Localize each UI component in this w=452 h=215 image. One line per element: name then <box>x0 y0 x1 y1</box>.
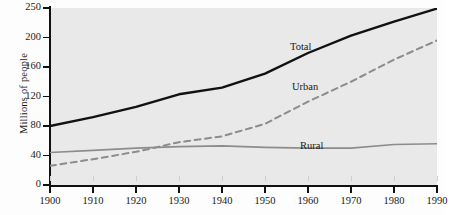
x-tick-label: 1960 <box>285 195 331 206</box>
y-tick-label: 80 <box>0 119 41 130</box>
x-tick-mark <box>92 187 94 193</box>
x-tick-mark <box>178 187 180 193</box>
x-tick-label: 1980 <box>371 195 417 206</box>
y-tick-mark <box>43 7 50 9</box>
x-tick-mark <box>135 187 137 193</box>
y-tick-label: 40 <box>0 149 41 160</box>
series-label-urban: Urban <box>292 81 318 92</box>
x-tick-mark <box>264 187 266 193</box>
x-tick-mark <box>350 187 352 193</box>
y-tick-label: 160 <box>0 60 41 71</box>
y-tick-mark <box>43 96 50 98</box>
x-minor-mark <box>437 176 438 181</box>
x-tick-mark <box>436 187 438 193</box>
y-tick-mark <box>43 155 50 157</box>
y-tick-mark <box>43 37 50 39</box>
x-tick-mark <box>307 187 309 193</box>
series-label-total: Total <box>290 41 311 52</box>
y-tick-mark <box>43 184 50 186</box>
rural-line <box>50 144 437 153</box>
x-tick-label: 1950 <box>242 195 288 206</box>
y-tick-label: 200 <box>0 31 41 42</box>
x-tick-label: 1940 <box>199 195 245 206</box>
x-axis-line <box>49 185 438 187</box>
y-tick-mark <box>43 125 50 127</box>
y-tick-label: 120 <box>0 90 41 101</box>
x-tick-label: 1900 <box>27 195 73 206</box>
x-tick-mark <box>221 187 223 193</box>
x-tick-mark <box>393 187 395 193</box>
series-label-rural: Rural <box>300 140 323 151</box>
x-tick-label: 1930 <box>156 195 202 206</box>
x-tick-label: 1990 <box>414 195 452 206</box>
x-tick-mark <box>49 187 51 193</box>
x-tick-label: 1910 <box>70 195 116 206</box>
series-layer <box>50 8 437 185</box>
y-tick-label: 0 <box>0 178 41 189</box>
y-tick-label: 250 <box>0 1 41 12</box>
x-tick-label: 1970 <box>328 195 374 206</box>
x-tick-label: 1920 <box>113 195 159 206</box>
y-tick-mark <box>43 66 50 68</box>
